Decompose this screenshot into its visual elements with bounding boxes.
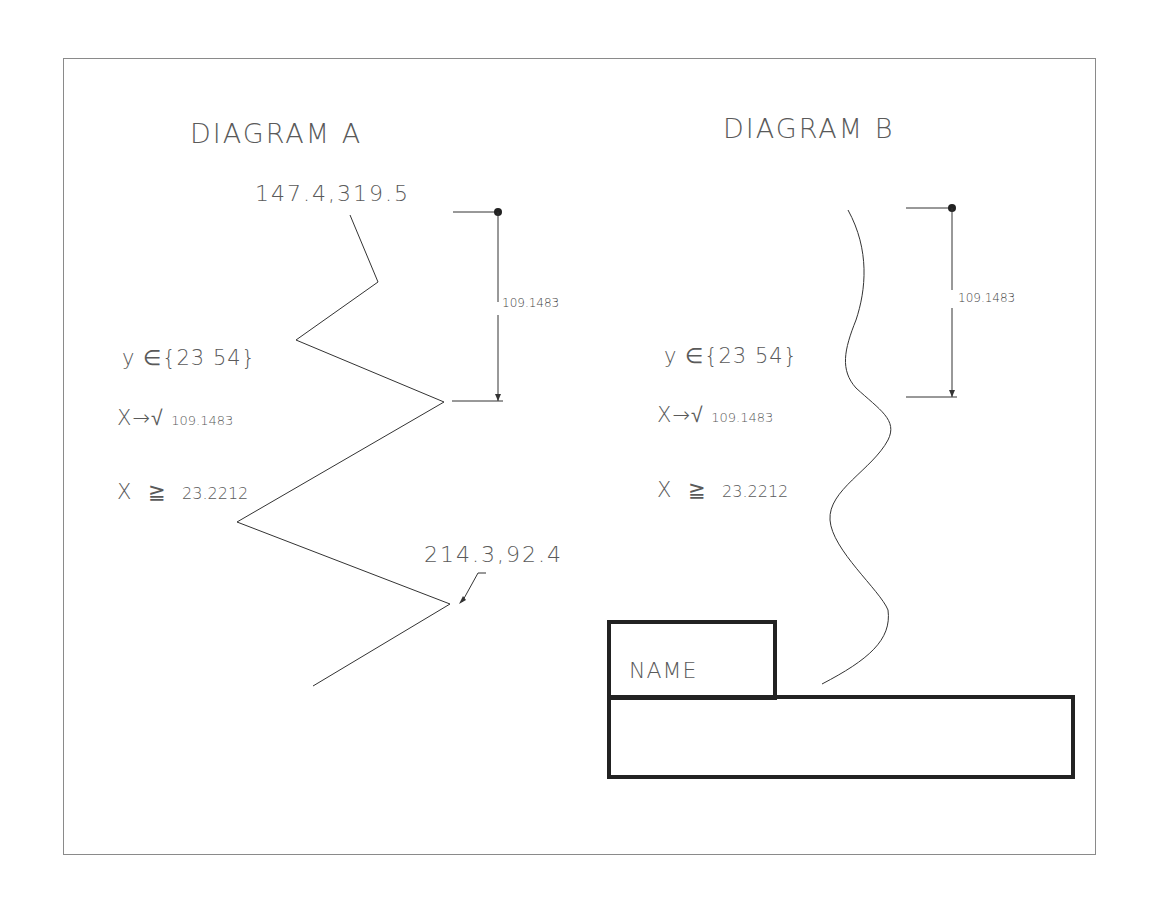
geq-icon: ≧ (148, 480, 167, 504)
sqrt-value: 109.1483 (171, 413, 233, 428)
variable: y (664, 344, 677, 368)
diagram-b-title: DIAGRAM B (723, 115, 894, 142)
diagram-b-sqrt-expression: X→√ 109.1483 (657, 405, 773, 426)
diagram-a-leader (459, 573, 486, 604)
diagram-b-dimension-label: 109.1483 (958, 292, 1015, 304)
variable: X (657, 478, 672, 502)
inequality-value: 23.2212 (722, 482, 788, 501)
diagram-a-sqrt-expression: X→√ 109.1483 (117, 408, 233, 429)
arrow-icon: → (672, 403, 691, 427)
variable: X (657, 403, 672, 427)
set-value: {23 54} (162, 346, 256, 370)
name-label-box: NAME (607, 620, 777, 700)
geq-icon: ≧ (688, 478, 707, 502)
name-value-field[interactable] (607, 695, 1075, 779)
sqrt-value: 109.1483 (711, 410, 773, 425)
inequality-value: 23.2212 (182, 484, 248, 503)
arrowhead-icon (495, 394, 501, 401)
arrow-icon: → (132, 406, 151, 430)
diagram-a-zigzag (237, 215, 450, 686)
set-value: {23 54} (704, 344, 798, 368)
diagram-b-wave (822, 210, 891, 684)
diagram-b-set-expression: y ∈{23 54} (664, 346, 798, 367)
arrowhead-icon (949, 390, 955, 397)
diagram-a-title: DIAGRAM A (190, 120, 362, 147)
variable: y (122, 346, 135, 370)
sqrt-icon: √ (151, 406, 164, 430)
element-of-icon: ∈ (685, 344, 704, 368)
sqrt-icon: √ (691, 403, 704, 427)
diagram-a-dimension (452, 208, 503, 401)
diagram-a-inequality-expression: X ≧ 23.2212 (117, 482, 248, 503)
name-label: NAME (629, 658, 697, 683)
diagram-a-dimension-label: 109.1483 (502, 297, 559, 309)
diagram-b-inequality-expression: X ≧ 23.2212 (657, 480, 788, 501)
variable: X (117, 480, 132, 504)
element-of-icon: ∈ (143, 346, 162, 370)
diagram-a-bottom-coordinate: 214.3,92.4 (424, 544, 563, 566)
variable: X (117, 406, 132, 430)
diagram-b-dimension (906, 204, 957, 397)
diagram-a-top-coordinate: 147.4,319.5 (255, 183, 410, 205)
diagram-a-set-expression: y ∈{23 54} (122, 348, 256, 369)
